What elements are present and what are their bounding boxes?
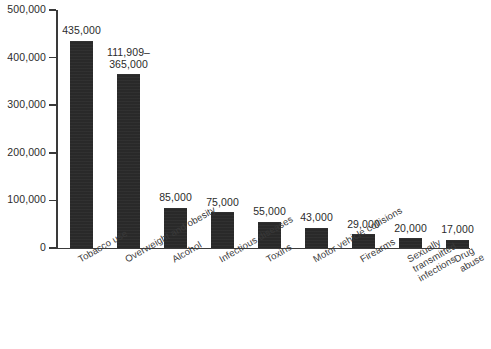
y-axis-tick	[49, 104, 56, 106]
bar-value-label: 435,000	[44, 25, 120, 37]
bar-value-label: 111,909– 365,000	[91, 47, 167, 70]
bar	[117, 74, 140, 248]
y-axis-tick-label: 0	[0, 241, 46, 253]
bar-chart: 500,000400,000300,000200,000100,0000 435…	[0, 0, 491, 349]
y-axis-tick-label: 400,000	[0, 51, 46, 63]
y-axis-tick-label: 300,000	[0, 98, 46, 110]
y-axis-tick-label: 500,000	[0, 3, 46, 15]
y-axis-tick	[49, 152, 56, 154]
y-axis-tick	[49, 9, 56, 11]
bar	[305, 228, 328, 248]
y-axis-tick-label: 100,000	[0, 193, 46, 205]
bar	[70, 41, 93, 248]
y-axis-tick	[49, 200, 56, 202]
y-axis-tick-label: 200,000	[0, 146, 46, 158]
y-axis-tick	[49, 247, 56, 249]
y-axis-tick	[49, 57, 56, 59]
